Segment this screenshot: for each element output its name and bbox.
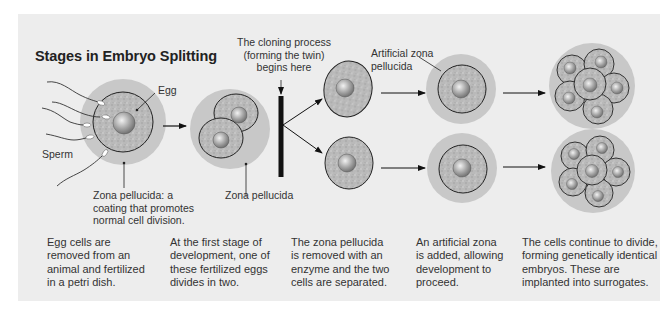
egg-label: Egg [158, 84, 177, 97]
caption-stage-1: Egg cells are removed from an animal and… [47, 236, 145, 289]
caption-stage-5: The cells continue to divide, forming ge… [522, 236, 658, 289]
stage2-two-cell [190, 89, 270, 197]
stage3-separated-cells [320, 57, 377, 189]
stage5-embryo-top [549, 43, 635, 129]
caption-stage-4: An artificial zona is added, allowing de… [416, 236, 503, 289]
caption-stage-2: At the first stage of development, one o… [170, 236, 270, 289]
caption-stage-3: The zona pellucida is removed with an en… [291, 236, 389, 289]
cloning-split-marker [279, 80, 323, 177]
stage4-artificial-zona [419, 54, 497, 203]
cloning-note-label: The cloning process (forming the twin) b… [237, 36, 331, 74]
stage1-egg [42, 79, 166, 188]
zona-note-label: Zona pellucida: a coating that promotes … [93, 189, 194, 227]
artificial-zona-label: Artificial zona pellucida [371, 47, 433, 72]
stage5-embryo-bottom [551, 129, 635, 213]
sperm-label: Sperm [42, 148, 73, 161]
zona-pellucida-label: Zona pellucida [225, 189, 293, 202]
